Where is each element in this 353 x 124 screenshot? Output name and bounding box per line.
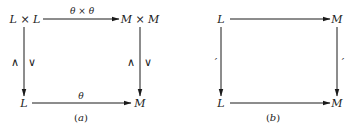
label-a-top-arrow: θ × θ [70, 7, 94, 16]
node-a-bottom-right: M [134, 98, 145, 109]
label-a-bottom-arrow: θ [78, 92, 83, 101]
node-b-bottom-right: M [331, 98, 342, 109]
diagram-arrows [0, 0, 353, 124]
node-a-top-right: M × M [121, 14, 160, 25]
caption-b: (b) [266, 112, 280, 123]
node-a-top-left: L × L [10, 14, 41, 25]
diagram-b-arrows [221, 19, 337, 103]
commutative-diagrams: L × L M × M L M θ × θ θ ∧ ∨ ∧ ∨ (a) L M … [0, 0, 353, 124]
node-a-bottom-left: L [20, 98, 27, 109]
label-b-left-arrow: ′ [215, 57, 218, 68]
label-a-left-wedge: ∧ [11, 57, 19, 68]
label-b-right-arrow: ′ [342, 57, 345, 68]
node-b-top-left: L [217, 14, 224, 25]
caption-a: (a) [74, 112, 88, 123]
label-a-left-vee: ∨ [28, 57, 36, 68]
label-a-right-wedge: ∧ [127, 57, 135, 68]
label-a-right-vee: ∨ [144, 57, 152, 68]
node-b-bottom-left: L [217, 98, 224, 109]
node-b-top-right: M [331, 14, 342, 25]
